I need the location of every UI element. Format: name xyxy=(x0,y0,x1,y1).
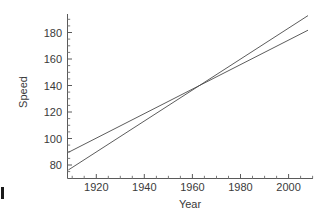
series-line-shallower xyxy=(68,30,308,152)
x-tick-label-1980: 1980 xyxy=(228,181,252,193)
page-edge-mark xyxy=(1,187,4,199)
x-tick-label-1920: 1920 xyxy=(84,181,108,193)
y-tick-label-140: 140 xyxy=(44,80,62,92)
x-axis-major-ticks xyxy=(96,174,288,179)
y-tick-label-160: 160 xyxy=(44,53,62,65)
series-line-steeper xyxy=(68,16,308,170)
x-tick-label-2000: 2000 xyxy=(276,181,300,193)
x-tick-label-1960: 1960 xyxy=(180,181,204,193)
y-axis-title: Speed xyxy=(17,76,29,108)
chart-figure: 80 100 120 140 160 180 1920 1940 1960 19… xyxy=(0,0,329,214)
x-axis-title: Year xyxy=(179,198,202,210)
line-chart-canvas: 80 100 120 140 160 180 1920 1940 1960 19… xyxy=(0,0,329,214)
y-tick-label-180: 180 xyxy=(44,27,62,39)
x-tick-label-1940: 1940 xyxy=(132,181,156,193)
y-tick-label-80: 80 xyxy=(50,159,62,171)
y-tick-label-120: 120 xyxy=(44,106,62,118)
y-tick-label-100: 100 xyxy=(44,133,62,145)
